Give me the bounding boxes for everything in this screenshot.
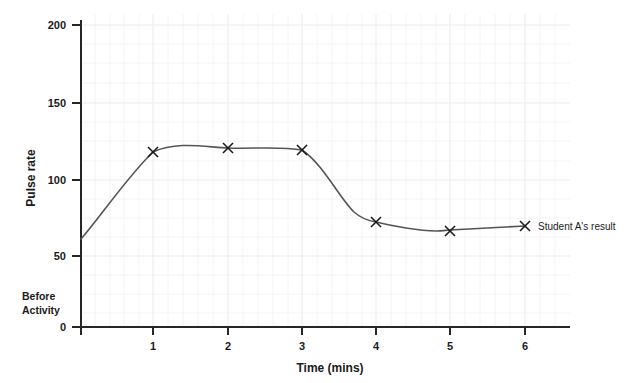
x-tick-label-2: 2 bbox=[225, 340, 231, 352]
x-axis-title: Time (mins) bbox=[296, 361, 363, 375]
x-tick-label-5: 5 bbox=[447, 340, 453, 352]
x-tick-label-3: 3 bbox=[299, 340, 305, 352]
x-tick-label-1: 1 bbox=[150, 340, 156, 352]
y-tick-label-0: 0 bbox=[60, 321, 66, 333]
y-tick-label-150: 150 bbox=[48, 97, 66, 109]
pulse-rate-chart: 200 150 100 50 0 1 2 3 4 5 6 Time (mins)… bbox=[0, 0, 635, 383]
chart-canvas: 200 150 100 50 0 1 2 3 4 5 6 Time (mins)… bbox=[0, 0, 635, 383]
before-activity-line1: Before bbox=[22, 290, 55, 302]
y-tick-label-200: 200 bbox=[48, 19, 66, 31]
series-annotation-label: Student A's result bbox=[538, 221, 616, 232]
y-tick-label-100: 100 bbox=[48, 174, 66, 186]
y-axis-title: Pulse rate bbox=[24, 149, 38, 207]
x-tick-label-6: 6 bbox=[522, 340, 528, 352]
before-activity-line2: Activity bbox=[22, 304, 60, 316]
y-tick-label-50: 50 bbox=[54, 250, 66, 262]
x-tick-label-4: 4 bbox=[373, 340, 380, 352]
